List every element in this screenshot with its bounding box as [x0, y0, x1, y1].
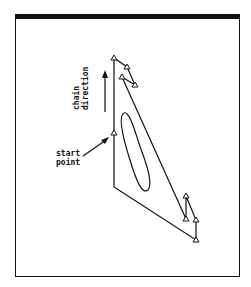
loop-shape: [121, 113, 150, 191]
start-pointer-arrow: [83, 140, 106, 156]
triangle-marker-icon: [111, 130, 117, 135]
triangle-marker-icon: [193, 237, 199, 242]
triangle-marker-icon: [124, 64, 130, 69]
triangle-marker-icon: [193, 217, 199, 222]
chain-direction-label: chain direction: [72, 50, 90, 110]
triangle-marker-icon: [111, 55, 117, 60]
triangle-marker-icon: [119, 74, 125, 79]
chain-diagram: [0, 0, 251, 287]
start-point-label: start point: [56, 149, 80, 167]
label-line: chain: [72, 50, 81, 110]
triangle-marker-icon: [132, 82, 138, 87]
label-line: point: [56, 158, 80, 167]
triangle-marker-icon: [183, 216, 189, 221]
triangle-marker-icon: [183, 193, 189, 198]
label-line: start: [56, 149, 80, 158]
label-line: direction: [81, 50, 90, 110]
arrowhead-icon: [102, 70, 108, 78]
